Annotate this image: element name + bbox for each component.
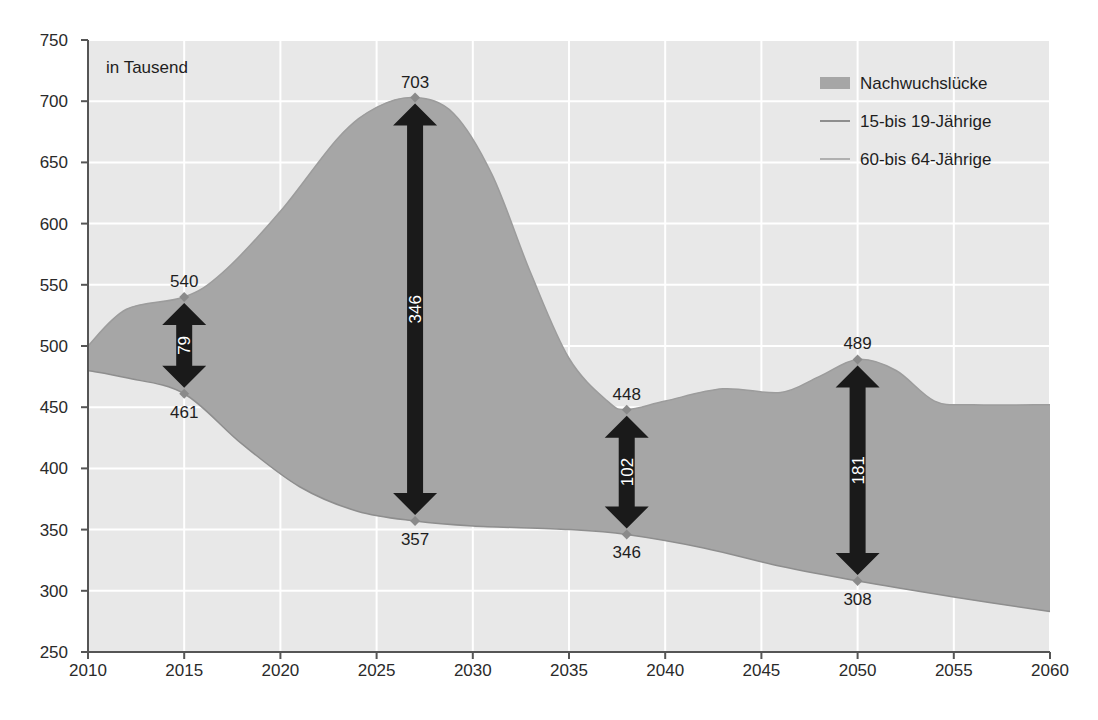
x-tick-label: 2040	[646, 661, 684, 680]
lower-value-label: 357	[401, 530, 429, 549]
x-tick-label: 2025	[358, 661, 396, 680]
y-tick-label: 550	[40, 276, 68, 295]
x-tick-label: 2030	[454, 661, 492, 680]
upper-value-label: 703	[401, 73, 429, 92]
x-tick-label: 2060	[1031, 661, 1069, 680]
y-tick-label: 350	[40, 521, 68, 540]
y-tick-label: 500	[40, 337, 68, 356]
x-tick-label: 2020	[261, 661, 299, 680]
legend-label: 15-bis 19-Jährige	[860, 112, 991, 131]
y-tick-label: 400	[40, 459, 68, 478]
legend-swatch-area	[820, 77, 850, 89]
y-tick-label: 300	[40, 582, 68, 601]
y-tick-label: 600	[40, 215, 68, 234]
legend-label: Nachwuchslücke	[860, 74, 988, 93]
legend-label: 60-bis 64-Jährige	[860, 150, 991, 169]
gap-value: 346	[406, 295, 425, 323]
x-tick-label: 2035	[550, 661, 588, 680]
gap-value: 102	[618, 458, 637, 486]
lower-value-label: 308	[843, 590, 871, 609]
x-tick-label: 2045	[742, 661, 780, 680]
chart: 2503003504004505005506006507007502010201…	[0, 0, 1098, 720]
gap-value: 79	[175, 336, 194, 355]
lower-value-label: 461	[170, 403, 198, 422]
upper-value-label: 448	[613, 385, 641, 404]
x-tick-label: 2050	[839, 661, 877, 680]
x-tick-label: 2055	[935, 661, 973, 680]
gap-value: 181	[849, 456, 868, 484]
upper-value-label: 489	[843, 334, 871, 353]
y-tick-label: 250	[40, 643, 68, 662]
upper-value-label: 540	[170, 272, 198, 291]
y-tick-label: 750	[40, 31, 68, 50]
y-tick-label: 700	[40, 92, 68, 111]
lower-value-label: 346	[613, 543, 641, 562]
x-tick-label: 2010	[69, 661, 107, 680]
x-tick-label: 2015	[165, 661, 203, 680]
y-tick-label: 450	[40, 398, 68, 417]
unit-note: in Tausend	[106, 58, 188, 77]
y-tick-label: 650	[40, 153, 68, 172]
